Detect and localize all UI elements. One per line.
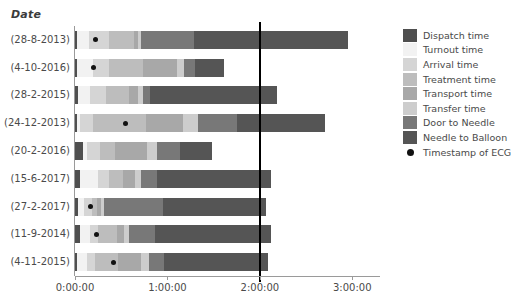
bar-row [75, 59, 380, 77]
x-axis-tick [167, 276, 168, 280]
category-label: (20-2-2016) [0, 145, 70, 156]
bar-row [75, 86, 380, 104]
bar-segment [147, 142, 156, 160]
legend-item[interactable]: Transport time [403, 86, 509, 101]
legend-item[interactable]: Arrival time [403, 57, 509, 72]
x-axis-tick-label: 2:00:00 [241, 282, 280, 293]
ecg-timestamp-marker [93, 37, 98, 42]
bar-segment [77, 31, 89, 49]
bar-segment [184, 59, 195, 77]
bar-segment [237, 114, 325, 132]
bar-row [75, 142, 380, 160]
bar-segment [163, 198, 266, 216]
legend-swatch [403, 102, 417, 115]
legend-dot-marker-icon [403, 146, 417, 159]
bar-segment [150, 86, 276, 104]
bar-segment [149, 253, 164, 271]
legend-item-ecg-marker[interactable]: Timestamp of ECG [403, 145, 509, 160]
reference-line-2h [259, 22, 261, 282]
ecg-timestamp-marker [88, 204, 93, 209]
bar-segment [80, 114, 94, 132]
bar-segment [98, 170, 109, 188]
legend-item[interactable]: Turnout time [403, 43, 509, 58]
legend-item[interactable]: Dispatch time [403, 28, 509, 43]
bar-segment [109, 59, 143, 77]
ecg-timestamp-marker [111, 260, 116, 265]
legend-item[interactable]: Needle to Balloon [403, 130, 509, 145]
ecg-timestamp-marker [94, 232, 99, 237]
bar-segment [143, 86, 151, 104]
bar-segment [129, 225, 155, 243]
bar-segment [117, 225, 125, 243]
bar-segment [194, 31, 348, 49]
bar-segment [146, 114, 183, 132]
category-label: (28-2-2015) [0, 89, 70, 100]
category-label: (11-9-2014) [0, 228, 70, 239]
x-axis-tick [260, 276, 261, 280]
bar-segment [109, 170, 123, 188]
category-label-group: (28-8-2013)(4-10-2016)(28-2-2015)(24-12-… [0, 26, 72, 276]
bar-segment [157, 142, 180, 160]
x-axis-line [75, 276, 380, 277]
legend-label: Treatment time [423, 74, 496, 85]
legend-label: Transport time [423, 88, 492, 99]
plot-area [75, 26, 380, 276]
legend-swatch [403, 87, 417, 100]
bar-segment [143, 59, 177, 77]
legend-swatch [403, 73, 417, 86]
category-label: (4-11-2015) [0, 256, 70, 267]
bar-row [75, 170, 380, 188]
bar-segment [183, 114, 198, 132]
legend: Dispatch timeTurnout timeArrival timeTre… [403, 28, 509, 159]
bar-segment [141, 253, 149, 271]
bar-segment [195, 59, 224, 77]
bar-row [75, 198, 380, 216]
category-label: (15-6-2017) [0, 173, 70, 184]
bar-segment [80, 170, 98, 188]
bar-segment [123, 170, 135, 188]
bar-segment [157, 170, 271, 188]
bar-segment [89, 31, 109, 49]
x-axis-tick-label: 3:00:00 [333, 282, 372, 293]
bar-row [75, 114, 380, 132]
bar-segment [155, 225, 271, 243]
legend-swatch [403, 43, 417, 56]
legend-label: Transfer time [423, 103, 486, 114]
category-label: (24-12-2013) [0, 117, 70, 128]
category-label: (4-10-2016) [0, 62, 70, 73]
bar-segment [93, 114, 145, 132]
bar-segment [177, 59, 185, 77]
bar-segment [104, 198, 163, 216]
bar-segment [90, 86, 105, 104]
bar-segment [75, 142, 83, 160]
bar-segment [87, 142, 99, 160]
bar-segment [98, 225, 116, 243]
legend-label: Needle to Balloon [423, 132, 507, 143]
bar-segment [77, 253, 88, 271]
legend-label: Timestamp of ECG [423, 147, 511, 158]
x-axis-tick [75, 276, 76, 280]
legend-item[interactable]: Treatment time [403, 72, 509, 87]
bar-segment [141, 170, 156, 188]
legend-label: Turnout time [423, 44, 483, 55]
bar-segment [141, 31, 193, 49]
legend-swatch [403, 58, 417, 71]
legend-item[interactable]: Door to Needle [403, 116, 509, 131]
bar-row [75, 31, 380, 49]
legend-item[interactable]: Transfer time [403, 101, 509, 116]
category-label: (28-8-2013) [0, 34, 70, 45]
bar-segment [115, 142, 147, 160]
legend-label: Dispatch time [423, 30, 489, 41]
x-axis-tick-label: 0:00:00 [56, 282, 95, 293]
legend-swatch [403, 29, 417, 42]
category-label: (27-2-2017) [0, 201, 70, 212]
bar-segment [87, 253, 95, 271]
bar-segment [180, 142, 212, 160]
x-axis-tick-label: 1:00:00 [148, 282, 187, 293]
bar-segment [164, 253, 267, 271]
bar-segment [198, 114, 237, 132]
legend-label: Door to Needle [423, 117, 495, 128]
bar-segment [106, 86, 129, 104]
legend-swatch [403, 116, 417, 129]
